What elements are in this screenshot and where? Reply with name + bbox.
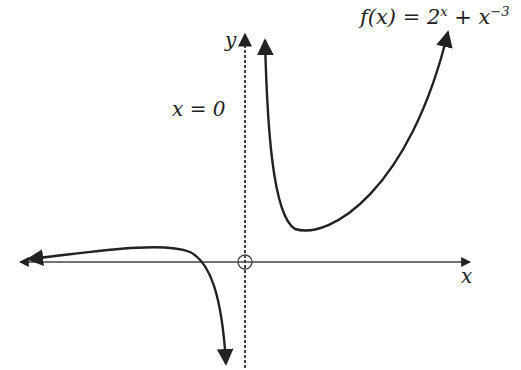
y-axis-label: y [225,28,236,52]
function-label: f(x) = 2x + x−3 [360,4,510,29]
left-branch-curve [28,247,226,364]
asymptote-label: x = 0 [172,97,225,121]
right-branch-curve [265,32,448,230]
function-label-mid: + x [448,5,491,29]
function-label-base: f(x) = 2 [360,5,440,29]
function-label-exp2: −3 [490,4,509,19]
graph-canvas [0,0,521,370]
x-axis-label: x [461,264,472,288]
function-label-exp1: x [440,4,447,19]
graph-figure: f(x) = 2x + x−3 x = 0 y x [0,0,521,370]
